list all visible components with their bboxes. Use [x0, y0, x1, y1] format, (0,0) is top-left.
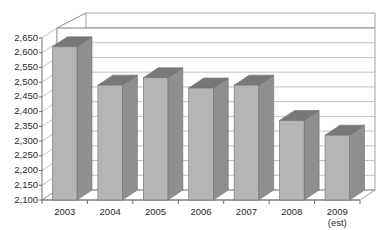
x-axis-tick-label-text: 2009 — [327, 206, 348, 217]
bar-front-face — [189, 88, 214, 200]
bar-side-face — [77, 37, 92, 200]
bar-front-face — [98, 85, 123, 200]
bar — [143, 68, 183, 200]
bar-front-face — [234, 85, 259, 200]
x-axis-tick-label: 2007 — [224, 206, 268, 217]
bar — [234, 75, 274, 200]
bar-front-face — [52, 47, 77, 200]
x-axis-tick-label-text: 2007 — [236, 206, 257, 217]
x-axis-ticks-group — [42, 200, 360, 204]
x-axis-tick-label: 2005 — [134, 206, 178, 217]
bar — [189, 78, 229, 200]
x-axis-tick-label: 2009(est) — [315, 206, 359, 228]
bar-front-face — [325, 135, 350, 200]
y-axis-tick-label: 2,300 — [0, 136, 38, 146]
chart-canvas — [0, 0, 383, 230]
y-axis-tick-label: 2,400 — [0, 106, 38, 116]
x-axis-tick-label-text: 2008 — [281, 206, 302, 217]
bar-side-face — [213, 78, 228, 200]
y-axis-tick-label: 2,450 — [0, 91, 38, 101]
bar-front-face — [143, 78, 168, 200]
x-axis-tick-label: 2006 — [179, 206, 223, 217]
x-axis-tick-label-text: 2003 — [54, 206, 75, 217]
bar — [98, 75, 138, 200]
y-axis-tick-label: 2,550 — [0, 62, 38, 72]
y-axis-tick-label: 2,650 — [0, 33, 38, 43]
x-axis-tick-label: 2004 — [88, 206, 132, 217]
y-axis-tick-label: 2,250 — [0, 150, 38, 160]
depth-guideline — [42, 28, 57, 38]
x-axis-tick-label-text: 2006 — [190, 206, 211, 217]
bar-side-face — [259, 75, 274, 200]
y-axis-tick-label: 2,500 — [0, 77, 38, 87]
x-axis-tick-sublabel: (est) — [315, 217, 359, 228]
bar-side-face — [168, 68, 183, 200]
bar — [52, 37, 92, 200]
y-axis-tick-label: 2,100 — [0, 195, 38, 205]
bar — [325, 125, 365, 200]
y-axis-tick-label: 2,350 — [0, 121, 38, 131]
y-axis-tick-label: 2,150 — [0, 180, 38, 190]
chart-ceiling-panel — [57, 13, 375, 28]
bar-side-face — [350, 125, 365, 200]
bar-side-face — [122, 75, 137, 200]
bar-side-face — [304, 110, 319, 200]
y-axis-tick-label: 2,600 — [0, 47, 38, 57]
x-axis-tick-label: 2008 — [270, 206, 314, 217]
x-axis-tick-label: 2003 — [43, 206, 87, 217]
x-axis-tick-label-text: 2004 — [100, 206, 121, 217]
x-axis-tick-label-text: 2005 — [145, 206, 166, 217]
bar — [280, 110, 320, 200]
bar-front-face — [280, 120, 305, 200]
chart-3d-column: 2,6502,6002,5502,5002,4502,4002,3502,300… — [0, 0, 383, 230]
y-axis-tick-label: 2,200 — [0, 165, 38, 175]
